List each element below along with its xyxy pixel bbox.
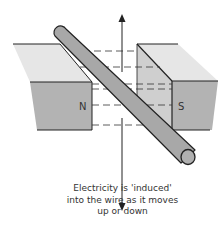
wire-end [181,150,195,165]
south-pole-label: S [178,101,184,112]
caption-line-3: up or down [40,206,205,218]
motion-arrow [119,14,126,211]
caption-line-2: into the wire as it moves [40,195,205,207]
caption-line-1: Electricity is 'induced' [40,183,205,195]
arrow-up-icon [119,14,126,22]
caption: Electricity is 'induced' into the wire a… [40,183,205,218]
north-pole-label: N [79,101,86,112]
